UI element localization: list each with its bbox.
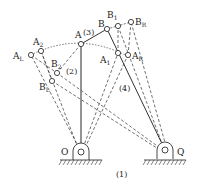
- joint-B: [104, 26, 109, 31]
- joint-BL: [49, 78, 54, 83]
- ground-pivot-Q: Q: [143, 142, 186, 165]
- joint-AL: [28, 52, 33, 57]
- label-A: A: [74, 30, 82, 40]
- label-BL: BL: [39, 82, 50, 93]
- label-A1: A1: [99, 55, 110, 66]
- label-link2: (2): [66, 67, 77, 76]
- label-BR: BR: [135, 17, 147, 28]
- joint-B1: [115, 23, 120, 28]
- label-AL: AL: [12, 51, 24, 62]
- label-A2: A2: [32, 37, 44, 48]
- label-B: B: [98, 19, 105, 29]
- label-AR: AR: [131, 51, 144, 62]
- label-O: O: [61, 147, 68, 157]
- dashed-links-O: [31, 44, 128, 148]
- ground-pivot-O: O: [59, 143, 102, 165]
- joint-AR: [125, 52, 130, 57]
- label-link4: (4): [119, 84, 130, 93]
- dashed-links-Q: [31, 22, 166, 150]
- joint-A1: [115, 50, 120, 55]
- label-B2: B2: [51, 59, 62, 70]
- label-Q: Q: [177, 147, 184, 157]
- label-B1: B1: [107, 10, 117, 21]
- label-link1: (1): [116, 170, 127, 179]
- joint-B2: [54, 70, 59, 75]
- link-4-rocker: [107, 29, 165, 150]
- joint-BR: [128, 19, 133, 24]
- label-link3: (3): [83, 28, 94, 37]
- joint-A: [78, 41, 83, 46]
- four-bar-linkage-diagram: O Q A (3) B B1 BR A1: [0, 0, 199, 188]
- joint-A2: [38, 48, 43, 53]
